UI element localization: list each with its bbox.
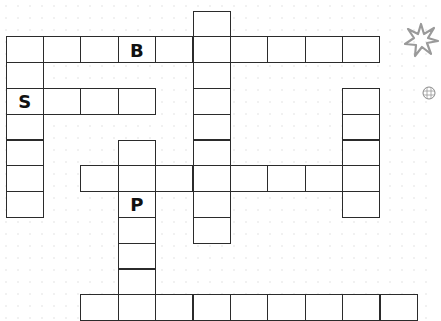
crossword-cell[interactable] xyxy=(43,88,81,115)
crossword-cell[interactable] xyxy=(305,36,343,63)
crossword-cell[interactable] xyxy=(43,36,81,63)
crossword-cell[interactable] xyxy=(267,165,305,192)
crossword-cell[interactable] xyxy=(6,191,44,218)
crossword-cell[interactable] xyxy=(80,36,118,63)
crossword-cell[interactable] xyxy=(193,217,231,244)
crossword-cell[interactable] xyxy=(305,294,343,321)
crossword-cell[interactable] xyxy=(118,88,156,115)
crossword-cell[interactable] xyxy=(193,62,231,89)
crossword-cell[interactable] xyxy=(267,36,305,63)
crossword-cell[interactable] xyxy=(230,36,268,63)
crossword-cell[interactable] xyxy=(342,191,380,218)
crossword-cell[interactable] xyxy=(118,217,156,244)
crossword-cell[interactable] xyxy=(80,165,118,192)
crossword-cell[interactable] xyxy=(267,294,305,321)
crossword-cell[interactable] xyxy=(80,294,118,321)
crossword-cell[interactable] xyxy=(118,269,156,296)
crossword-cell[interactable] xyxy=(342,165,380,192)
crossword-cell[interactable] xyxy=(193,294,231,321)
crossword-cell[interactable] xyxy=(155,36,193,63)
crossword-cell[interactable] xyxy=(342,114,380,141)
crossword-cell[interactable]: S xyxy=(6,88,44,115)
crossword-cell[interactable] xyxy=(193,191,231,218)
crossword-cell[interactable] xyxy=(6,114,44,141)
crossword-cell[interactable]: P xyxy=(118,191,156,218)
crossword-cell[interactable] xyxy=(342,88,380,115)
crossword-cell[interactable] xyxy=(118,243,156,270)
crossword-cell[interactable] xyxy=(305,165,343,192)
crossword-cell[interactable] xyxy=(155,165,193,192)
crossword-cell[interactable] xyxy=(193,88,231,115)
crossword-cell[interactable] xyxy=(80,88,118,115)
crossword-cell[interactable] xyxy=(342,36,380,63)
ball-icon xyxy=(422,86,436,100)
crossword-cell[interactable] xyxy=(6,140,44,167)
cell-letter: S xyxy=(18,91,31,112)
crossword-cell[interactable] xyxy=(118,294,156,321)
crossword-cell[interactable] xyxy=(6,36,44,63)
crossword-cell[interactable] xyxy=(118,140,156,167)
crossword-cell[interactable] xyxy=(193,165,231,192)
crossword-cell[interactable]: B xyxy=(118,36,156,63)
crossword-cell[interactable] xyxy=(230,165,268,192)
crossword-cell[interactable] xyxy=(155,294,193,321)
crossword-cell[interactable] xyxy=(380,294,418,321)
cell-letter: P xyxy=(130,194,143,215)
crossword-cell[interactable] xyxy=(193,140,231,167)
crossword-cell[interactable] xyxy=(342,140,380,167)
asterisk-flower-icon xyxy=(401,20,441,60)
crossword-cell[interactable] xyxy=(193,114,231,141)
cell-letter: B xyxy=(130,40,144,61)
crossword-cell[interactable] xyxy=(230,294,268,321)
crossword-cell[interactable] xyxy=(193,11,231,38)
crossword-cell[interactable] xyxy=(193,36,231,63)
crossword-cell[interactable] xyxy=(6,165,44,192)
crossword-cell[interactable] xyxy=(342,294,380,321)
crossword-cell[interactable] xyxy=(118,165,156,192)
crossword-cell[interactable] xyxy=(6,62,44,89)
